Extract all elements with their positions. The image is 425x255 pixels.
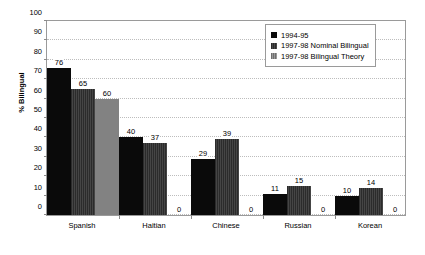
bar-wrapper: 0	[239, 21, 263, 215]
x-axis-category-label: Chinese	[190, 221, 262, 230]
bar-wrapper: 40	[119, 21, 143, 215]
y-axis-tick-label: 90	[34, 27, 42, 36]
legend-item-label: 1997-98 Nominal Bilingual	[281, 41, 369, 50]
x-axis-category-label: Russian	[262, 221, 334, 230]
bar[interactable]: 37	[143, 143, 167, 215]
bar-group: 29390	[191, 21, 263, 215]
bar-value-label: 14	[366, 178, 376, 187]
bar-wrapper: 39	[215, 21, 239, 215]
y-axis-tick-label: 100	[29, 8, 42, 17]
bar-wrapper: 37	[143, 21, 167, 215]
bar-value-label: 40	[126, 127, 136, 136]
bar-wrapper: 0	[383, 21, 407, 215]
y-axis-tick-label: 70	[34, 66, 42, 75]
bar-wrapper: 65	[71, 21, 95, 215]
bar-chart: % Bilingual 1009080706050403020100 76656…	[0, 0, 425, 255]
bar[interactable]: 65	[71, 89, 95, 215]
bar[interactable]: 39	[215, 139, 239, 215]
legend-item[interactable]: 1994-95	[271, 31, 369, 40]
legend-item[interactable]: 1997-98 Bilingual Theory	[271, 52, 369, 61]
bar[interactable]: 10	[335, 196, 359, 215]
x-axis-tick-mark	[191, 215, 192, 219]
bar-value-label: 15	[294, 176, 304, 185]
bar[interactable]: 11	[263, 194, 287, 215]
bar-value-label: 76	[54, 58, 64, 67]
legend-item[interactable]: 1997-98 Nominal Bilingual	[271, 41, 369, 50]
y-axis-tick-label: 20	[34, 163, 42, 172]
legend-swatch-icon	[271, 32, 277, 38]
x-axis-category-label: Korean	[334, 221, 406, 230]
bar[interactable]: 40	[119, 137, 143, 215]
y-axis-tick-label: 60	[34, 85, 42, 94]
bar-value-label: 29	[198, 149, 208, 158]
bar-wrapper: 76	[47, 21, 71, 215]
y-axis-title: % Bilingual	[17, 48, 26, 138]
bar-value-label: 11	[270, 184, 280, 193]
bar-wrapper: 0	[167, 21, 191, 215]
x-axis-tick-mark	[335, 215, 336, 219]
bar-value-label: 0	[320, 205, 326, 214]
x-axis-category-label: Spanish	[46, 221, 118, 230]
y-axis-tick-label: 30	[34, 143, 42, 152]
bar-value-label: 37	[150, 133, 160, 142]
legend-item-label: 1994-95	[281, 31, 309, 40]
bar-group: 766560	[47, 21, 119, 215]
legend-swatch-icon	[271, 53, 277, 59]
legend: 1994-951997-98 Nominal Bilingual1997-98 …	[265, 24, 376, 67]
x-axis-tick-mark	[119, 215, 120, 219]
bar[interactable]: 14	[359, 188, 383, 215]
x-axis-tick-mark	[263, 215, 264, 219]
y-axis-tick-label: 10	[34, 182, 42, 191]
bar[interactable]: 60	[95, 99, 119, 215]
bar-value-label: 65	[78, 79, 88, 88]
bar-value-label: 60	[102, 89, 112, 98]
bar-group: 40370	[119, 21, 191, 215]
bar[interactable]: 29	[191, 159, 215, 215]
bar-wrapper: 60	[95, 21, 119, 215]
x-axis-labels: SpanishHaitianChineseRussianKorean	[46, 221, 406, 230]
bar-value-label: 39	[222, 129, 232, 138]
legend-item-label: 1997-98 Bilingual Theory	[281, 52, 364, 61]
bar-value-label: 0	[392, 205, 398, 214]
bar[interactable]: 15	[287, 186, 311, 215]
y-axis-tick-label: 80	[34, 46, 42, 55]
bar-value-label: 0	[176, 205, 182, 214]
y-axis-tick-label: 50	[34, 105, 42, 114]
legend-swatch-icon	[271, 43, 277, 49]
y-axis-tick-label: 40	[34, 124, 42, 133]
bar-value-label: 10	[342, 186, 352, 195]
bar[interactable]: 76	[47, 68, 71, 215]
x-axis-category-label: Haitian	[118, 221, 190, 230]
bar-value-label: 0	[248, 205, 254, 214]
bar-wrapper: 29	[191, 21, 215, 215]
y-axis-tick-label: 0	[38, 202, 42, 211]
